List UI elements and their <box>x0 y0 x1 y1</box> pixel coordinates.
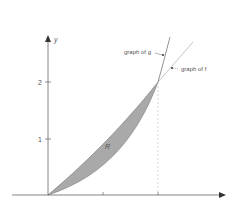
y-tick-label-1: 1 <box>38 136 42 143</box>
y-tick-label-2: 2 <box>38 79 42 86</box>
x-axis-arrow-icon <box>219 192 226 198</box>
area-between-curves-diagram: y 2 1 graph of g graph of f R <box>0 0 242 198</box>
graph-f-leader <box>173 68 179 69</box>
graph-f-pointer-icon <box>171 67 173 69</box>
region-r-label: R <box>105 143 110 150</box>
y-axis-arrow-icon <box>45 35 51 42</box>
graph-g-leader <box>155 53 162 55</box>
y-axis-label: y <box>53 36 58 44</box>
region-r <box>48 82 158 195</box>
graph-f-label: graph of f <box>181 66 207 72</box>
graph-g-pointer-icon <box>162 54 164 56</box>
graph-g-label: graph of g <box>124 49 151 55</box>
